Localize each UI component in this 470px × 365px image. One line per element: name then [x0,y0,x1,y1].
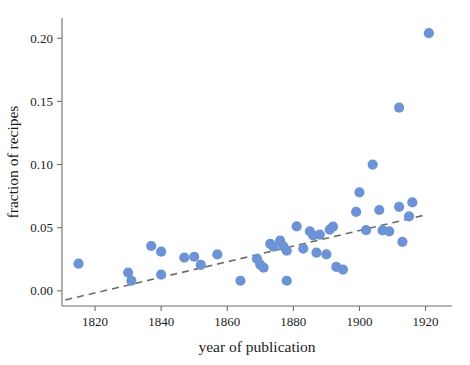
y-axis-label: fraction of recipes [4,106,21,219]
data-point [397,237,407,247]
data-point [298,243,308,253]
data-point [328,222,338,232]
data-point [315,230,325,240]
data-point [146,241,156,251]
data-point [189,252,199,262]
y-tick-label: 0.15 [30,94,53,109]
data-point [404,211,414,221]
data-point [259,263,269,273]
data-point [394,103,404,113]
data-point [196,260,206,270]
data-point [292,221,302,231]
data-point [126,276,136,286]
x-tick-label: 1920 [413,314,439,329]
y-tick-label: 0.20 [30,31,53,46]
trend-line [65,215,425,300]
data-point [424,28,434,38]
y-tick-label: 0.00 [30,283,53,298]
data-point [311,248,321,258]
x-tick-label: 1860 [214,314,240,329]
data-point [351,207,361,217]
data-point [73,259,83,269]
data-point [156,270,166,280]
data-point [179,253,189,263]
data-point [394,202,404,212]
y-tick-label: 0.05 [30,220,53,235]
data-point [354,187,364,197]
data-point [374,205,384,215]
data-point [235,276,245,286]
x-tick-label: 1820 [82,314,108,329]
y-tick-label: 0.10 [30,157,53,172]
x-tick-label: 1840 [148,314,174,329]
data-point [368,159,378,169]
data-point [156,247,166,257]
data-point [384,226,394,236]
data-point [338,265,348,275]
chart-figure: 0.000.050.100.150.2018201840186018801900… [0,0,470,365]
data-point [282,276,292,286]
data-point [361,225,371,235]
data-point [212,249,222,259]
x-axis-label: year of publication [198,338,315,355]
scatter-plot: 0.000.050.100.150.2018201840186018801900… [0,0,470,365]
data-point [407,197,417,207]
data-point [282,246,292,256]
x-tick-label: 1880 [280,314,306,329]
x-tick-label: 1900 [346,314,372,329]
data-point [321,249,331,259]
